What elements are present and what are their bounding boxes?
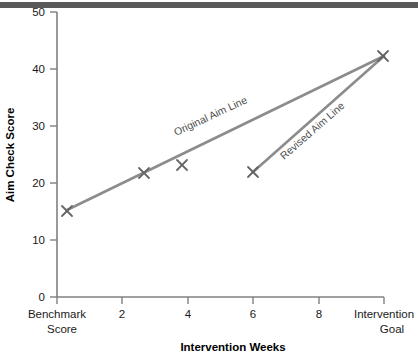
x-tick-label-goal-line2: Goal <box>380 323 404 335</box>
x-tick-label-8: 8 <box>316 308 322 320</box>
x-tick-label-2: 2 <box>119 308 125 320</box>
chart-container: 50 40 30 20 10 0 Benchmark Score 2 4 6 8… <box>0 0 418 356</box>
y-axis-title: Aim Check Score <box>4 108 16 203</box>
y-tick-label-50: 50 <box>32 6 45 18</box>
data-point-marker-week6 <box>248 167 258 177</box>
data-point-marker-benchmark <box>62 206 72 216</box>
aim-line-chart: 50 40 30 20 10 0 Benchmark Score 2 4 6 8… <box>0 0 418 356</box>
x-tick-label-benchmark-line2: Score <box>47 323 77 335</box>
y-tick-label-20: 20 <box>32 177 45 189</box>
revised-aim-line <box>253 56 384 172</box>
y-tick-label-30: 30 <box>32 120 45 132</box>
x-axis-title: Intervention Weeks <box>180 341 285 353</box>
x-axis-ticks <box>57 297 384 304</box>
x-tick-label-4: 4 <box>185 308 192 320</box>
data-point-marker-week4 <box>177 160 187 170</box>
y-axis-ticks <box>50 12 57 297</box>
y-tick-label-40: 40 <box>32 63 45 75</box>
x-tick-label-benchmark-line1: Benchmark <box>28 308 86 320</box>
y-tick-label-0: 0 <box>39 291 45 303</box>
x-axis-tick-labels: Benchmark Score 2 4 6 8 Intervention Goa… <box>28 308 414 335</box>
y-axis-tick-labels: 50 40 30 20 10 0 <box>32 6 45 303</box>
x-tick-label-6: 6 <box>250 308 256 320</box>
x-tick-label-goal-line1: Intervention <box>354 308 414 320</box>
original-aim-line-label: Original Aim Line <box>172 93 249 137</box>
data-point-marker-goal <box>378 51 388 61</box>
revised-aim-line-label: Revised Aim Line <box>277 99 346 161</box>
y-tick-label-10: 10 <box>32 234 45 246</box>
original-aim-line <box>67 56 384 210</box>
